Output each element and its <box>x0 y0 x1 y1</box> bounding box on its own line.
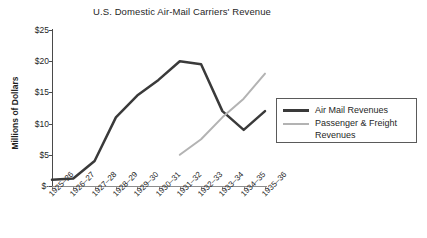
series-line-passenger-freight <box>180 74 265 155</box>
y-axis-tick-label: $10 <box>3 119 49 129</box>
legend: Air Mail Revenues Passenger & Freight Re… <box>276 98 417 143</box>
legend-label-air-mail: Air Mail Revenues <box>315 104 388 116</box>
y-axis-tick-label: $- <box>3 181 49 191</box>
legend-entry-passenger-freight: Passenger & Freight Revenues <box>283 117 415 141</box>
chart-title: U.S. Domestic Air-Mail Carriers' Revenue <box>62 6 302 17</box>
series-line-air-mail <box>52 61 265 180</box>
legend-entry-air-mail: Air Mail Revenues <box>283 104 388 116</box>
y-axis-tick-label: $25 <box>3 25 49 35</box>
y-axis-tick-label: $20 <box>3 56 49 66</box>
y-axis-tick-label: $15 <box>3 87 49 97</box>
chart-page: U.S. Domestic Air-Mail Carriers' Revenue… <box>0 0 427 238</box>
y-axis-tick-group: $25$20$15$10$5$- <box>0 0 49 238</box>
legend-swatch-air-mail-icon <box>283 109 309 112</box>
legend-label-passenger-freight: Passenger & Freight Revenues <box>315 117 415 141</box>
y-axis-tick-label: $5 <box>3 150 49 160</box>
y-axis-line <box>52 29 53 187</box>
legend-swatch-passenger-freight-icon <box>283 123 309 125</box>
